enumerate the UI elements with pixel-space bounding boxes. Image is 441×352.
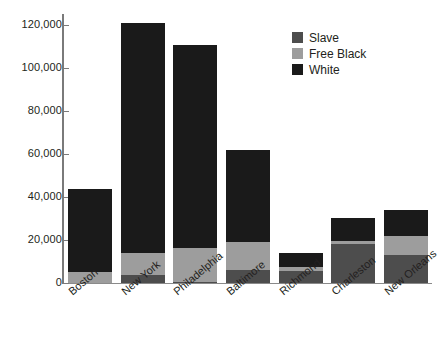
legend-item-label: White bbox=[309, 63, 340, 77]
stacked-bar-chart: 020,00040,00060,00080,000100,000120,000 … bbox=[0, 0, 441, 352]
legend-item-slave[interactable]: Slave bbox=[292, 30, 366, 45]
y-axis-tick: 40,000 bbox=[0, 197, 62, 198]
bar-segment-free-black bbox=[384, 236, 428, 255]
bar-segment-white bbox=[331, 218, 375, 240]
y-axis-tick-label: 40,000 bbox=[6, 190, 62, 202]
bar-segment-white bbox=[173, 45, 217, 247]
legend-swatch-icon bbox=[292, 64, 303, 75]
bar-new-york[interactable] bbox=[121, 23, 165, 283]
y-axis-tick-mark bbox=[62, 283, 69, 284]
bar-segment-white bbox=[121, 23, 165, 253]
y-axis-tick: 60,000 bbox=[0, 154, 62, 155]
y-axis-tick-label: 0 bbox=[6, 276, 62, 288]
y-axis-tick-label: 100,000 bbox=[6, 61, 62, 73]
legend-swatch-icon bbox=[292, 48, 303, 59]
chart-legend: SlaveFree BlackWhite bbox=[292, 30, 366, 78]
y-axis-tick: 100,000 bbox=[0, 68, 62, 69]
y-axis-tick-label: 120,000 bbox=[6, 18, 62, 30]
bar-philadelphia[interactable] bbox=[173, 45, 217, 283]
y-axis-tick: 120,000 bbox=[0, 25, 62, 26]
bar-segment-white bbox=[384, 210, 428, 236]
bar-segment-white bbox=[226, 150, 270, 243]
plot-area bbox=[64, 14, 432, 283]
y-axis-tick-label: 20,000 bbox=[6, 233, 62, 245]
y-axis-tick-label: 80,000 bbox=[6, 104, 62, 116]
legend-item-white[interactable]: White bbox=[292, 62, 366, 77]
legend-item-label: Slave bbox=[309, 31, 339, 45]
y-axis-tick: 20,000 bbox=[0, 240, 62, 241]
legend-swatch-icon bbox=[292, 32, 303, 43]
y-axis-tick-label: 60,000 bbox=[6, 147, 62, 159]
y-axis-tick: 0 bbox=[0, 283, 62, 284]
legend-item-free-black[interactable]: Free Black bbox=[292, 46, 366, 61]
bar-segment-free-black bbox=[331, 241, 375, 245]
legend-item-label: Free Black bbox=[309, 47, 366, 61]
y-axis-tick: 80,000 bbox=[0, 111, 62, 112]
bar-segment-white bbox=[68, 189, 112, 272]
